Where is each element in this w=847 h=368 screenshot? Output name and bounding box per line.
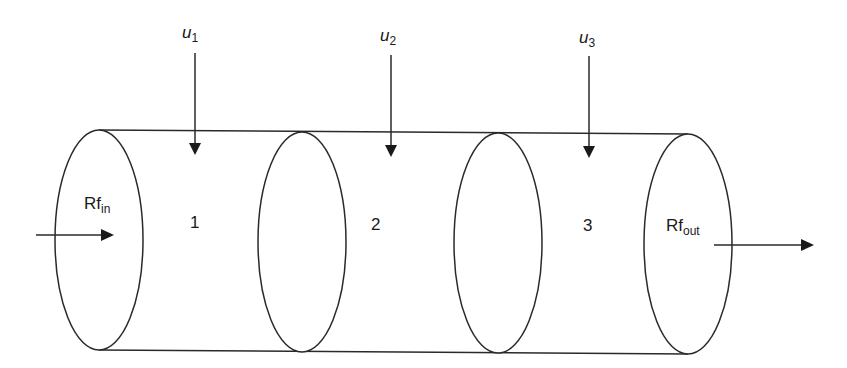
outlet-label-base: Rf: [666, 216, 683, 235]
reactor-diagram: [0, 0, 847, 368]
outlet-cross-section: [644, 134, 732, 354]
cylinder-bottom-edge: [99, 350, 688, 354]
inlet-cross-section: [55, 130, 143, 350]
input-arrow-u2: [385, 55, 397, 157]
input-subscript: 2: [389, 34, 396, 48]
cross-section-1-2: [258, 132, 346, 352]
outlet-label: Rfout: [666, 217, 700, 234]
outlet-label-subscript: out: [683, 224, 700, 238]
input-label-u2: u2: [380, 27, 396, 44]
cylinder-top-edge: [99, 130, 688, 134]
compartment-label-1: 1: [190, 214, 199, 231]
input-arrow-u1: [189, 53, 201, 155]
input-label-u1: u1: [182, 24, 198, 41]
inlet-label-base: Rf: [84, 194, 101, 213]
input-subscript: 1: [191, 31, 198, 45]
inlet-label-subscript: in: [101, 202, 110, 216]
input-arrow-u3: [583, 56, 595, 158]
cross-section-2-3: [454, 133, 542, 353]
input-label-u3: u3: [579, 29, 595, 46]
inlet-label: Rfin: [84, 195, 110, 212]
compartment-label-3: 3: [583, 217, 592, 234]
input-subscript: 3: [588, 36, 595, 50]
compartment-label-2: 2: [371, 216, 380, 233]
